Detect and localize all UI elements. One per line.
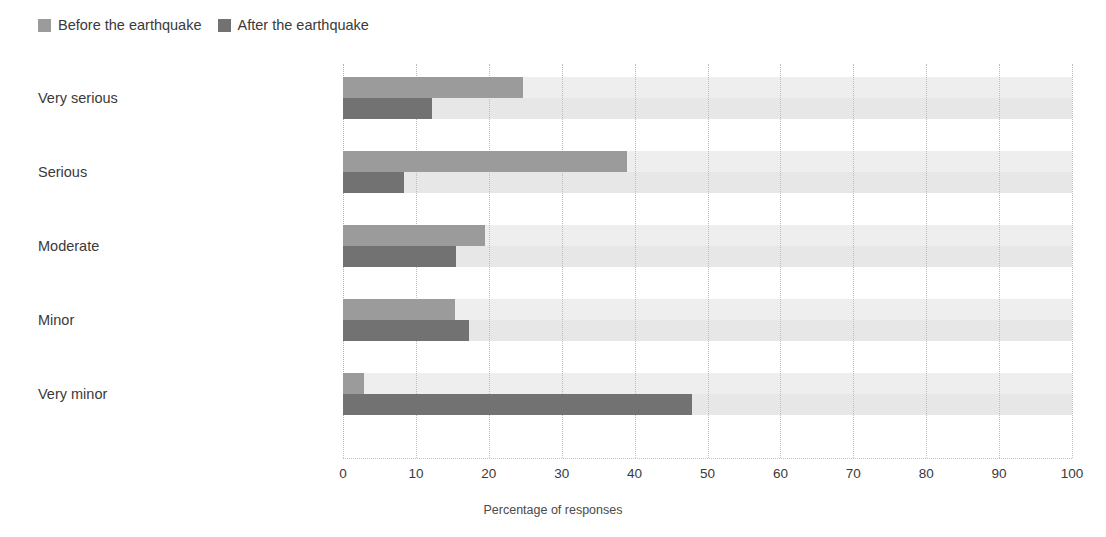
gridline-70 — [853, 64, 854, 450]
x-tick-label: 50 — [700, 466, 715, 481]
bar-before — [343, 151, 627, 172]
x-tick-80 — [926, 443, 927, 458]
x-tick-60 — [780, 443, 781, 458]
bar-before — [343, 299, 455, 320]
x-tick-label: 90 — [992, 466, 1007, 481]
bar-before — [343, 77, 523, 98]
bar-after — [343, 98, 432, 119]
legend-label-after: After the earthquake — [238, 18, 369, 33]
gridline-20 — [489, 64, 490, 450]
gridline-30 — [562, 64, 563, 450]
x-tick-label: 100 — [1061, 466, 1084, 481]
bar-after — [343, 246, 456, 267]
bar-before — [343, 225, 485, 246]
category-label: Minor — [38, 312, 74, 328]
legend-swatch-after-icon — [218, 19, 231, 32]
x-tick-label: 80 — [919, 466, 934, 481]
x-tick-label: 20 — [481, 466, 496, 481]
x-tick-90 — [999, 443, 1000, 458]
legend-swatch-before-icon — [38, 19, 51, 32]
x-tick-10 — [416, 443, 417, 458]
x-tick-30 — [562, 443, 563, 458]
gridline-60 — [780, 64, 781, 450]
gridline-50 — [708, 64, 709, 450]
bar-after — [343, 394, 692, 415]
x-tick-label: 70 — [846, 466, 861, 481]
category-label: Very serious — [38, 90, 118, 106]
legend-label-before: Before the earthquake — [58, 18, 202, 33]
x-tick-label: 30 — [554, 466, 569, 481]
x-tick-40 — [635, 443, 636, 458]
category-label: Very minor — [38, 386, 107, 402]
x-axis-title: Percentage of responses — [0, 503, 1106, 517]
legend-item-after: After the earthquake — [218, 18, 369, 33]
x-tick-label: 40 — [627, 466, 642, 481]
gridline-40 — [635, 64, 636, 450]
gridline-80 — [926, 64, 927, 450]
gridline-90 — [999, 64, 1000, 450]
x-tick-70 — [853, 443, 854, 458]
legend-item-before: Before the earthquake — [38, 18, 202, 33]
bar-after — [343, 320, 469, 341]
chart-legend: Before the earthquake After the earthqua… — [38, 15, 369, 35]
x-tick-50 — [708, 443, 709, 458]
bar-after — [343, 172, 404, 193]
bar-before — [343, 373, 364, 394]
x-tick-label: 0 — [339, 466, 347, 481]
x-tick-100 — [1072, 443, 1073, 458]
x-tick-label: 60 — [773, 466, 788, 481]
plot-area — [343, 64, 1072, 450]
category-label: Moderate — [38, 238, 99, 254]
gridline-100 — [1072, 64, 1073, 450]
x-tick-0 — [343, 443, 344, 458]
x-tick-20 — [489, 443, 490, 458]
x-tick-label: 10 — [408, 466, 423, 481]
x-axis-line — [343, 458, 1072, 459]
category-label: Serious — [38, 164, 87, 180]
